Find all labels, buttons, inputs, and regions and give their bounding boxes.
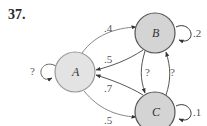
label-b-to-a: .5 bbox=[104, 53, 113, 65]
label-c-self: .1 bbox=[193, 106, 201, 118]
node-b: B bbox=[135, 13, 175, 53]
label-c-to-b: ? bbox=[170, 66, 175, 78]
label-a-self: ? bbox=[30, 65, 35, 77]
node-a-label: A bbox=[71, 65, 80, 79]
label-c-to-a: .7 bbox=[104, 82, 113, 94]
label-a-to-b: .4 bbox=[104, 22, 113, 34]
self-loop-c bbox=[176, 105, 191, 120]
self-loop-b bbox=[176, 26, 191, 41]
node-c: C bbox=[135, 92, 175, 126]
label-a-to-c: .5 bbox=[104, 114, 113, 126]
label-b-to-c: ? bbox=[145, 66, 150, 78]
node-a: A bbox=[55, 52, 95, 92]
label-b-self: .2 bbox=[193, 27, 201, 39]
self-loop-a bbox=[41, 64, 56, 79]
markov-diagram: A B C .4 .5 .7 .5 ? ? ? .2 .1 bbox=[0, 0, 207, 126]
node-b-label: B bbox=[152, 26, 160, 40]
node-c-label: C bbox=[152, 105, 161, 119]
